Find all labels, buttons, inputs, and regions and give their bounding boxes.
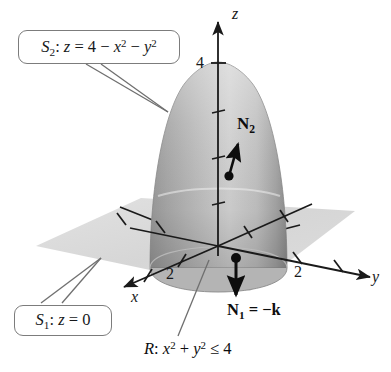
label-n2: N2 <box>237 114 255 136</box>
callout-s2: S2: z = 4 − x2 − y2 <box>18 30 180 64</box>
axis-label-z: z <box>232 5 238 23</box>
label-n2-text: N2 <box>237 114 255 133</box>
callout-s1: S1: z = 0 <box>14 305 112 336</box>
tick-label-y-2: 2 <box>294 263 302 281</box>
axis-label-y: y <box>372 268 379 286</box>
label-n1: N1 = −k <box>227 300 281 321</box>
tick-label-z-4: 4 <box>196 54 204 72</box>
callout-s1-text: S1: z = 0 <box>36 310 91 331</box>
callout-s2-text: S2: z = 4 − x2 − y2 <box>41 37 156 58</box>
leader-s1 <box>41 258 101 303</box>
label-region-r: R: x2 + y2 ≤ 4 <box>144 339 231 359</box>
tick-label-x-2: 2 <box>166 265 174 283</box>
axis-label-x: x <box>131 288 138 306</box>
label-region-r-text: R: x2 + y2 ≤ 4 <box>144 339 231 358</box>
figure-canvas: S2: z = 4 − x2 − y2 S1: z = 0 z y x 4 2 … <box>0 0 391 372</box>
label-n1-text: N1 = −k <box>227 300 281 319</box>
leader-s2 <box>86 64 168 112</box>
